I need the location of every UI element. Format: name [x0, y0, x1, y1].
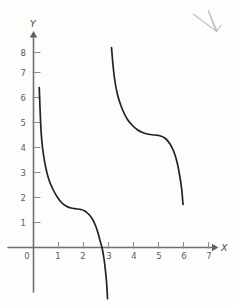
hand-drawn-function-graph: X Y 0 1 2 3 4 5 6 7 1 — [0, 0, 234, 305]
pencil-check-mark — [193, 10, 221, 31]
y-axis-label: Y — [30, 18, 37, 29]
y-tick-label-1: 1 — [21, 218, 26, 228]
x-axis-tick-labels: 0 1 2 3 4 5 6 7 — [24, 251, 211, 261]
y-tick-label-6: 6 — [21, 93, 26, 103]
y-tick-label-7: 7 — [21, 68, 26, 78]
x-axis-arrowhead — [212, 244, 219, 251]
x-tick-label-2: 2 — [80, 251, 85, 261]
curve-left-branch — [39, 88, 107, 299]
x-tick-label-7: 7 — [206, 251, 211, 261]
x-tick-label-4: 4 — [131, 251, 136, 261]
y-tick-label-5: 5 — [21, 118, 26, 128]
y-axis: Y — [30, 18, 37, 292]
x-axis-label: X — [220, 242, 228, 253]
x-tick-label-0: 0 — [24, 251, 29, 261]
y-axis-arrowhead — [30, 31, 37, 38]
x-tick-label-1: 1 — [55, 251, 60, 261]
x-tick-label-6: 6 — [181, 251, 186, 261]
y-tick-label-8: 8 — [21, 48, 26, 58]
y-axis-tick-labels: 1 2 3 4 5 6 7 8 — [21, 48, 26, 228]
x-tick-label-3: 3 — [106, 251, 111, 261]
curve-right-branch — [112, 48, 184, 205]
y-tick-label-3: 3 — [21, 168, 26, 178]
x-tick-label-5: 5 — [156, 251, 161, 261]
x-axis: X — [8, 242, 228, 253]
y-tick-label-2: 2 — [21, 193, 26, 203]
y-tick-label-4: 4 — [21, 143, 26, 153]
